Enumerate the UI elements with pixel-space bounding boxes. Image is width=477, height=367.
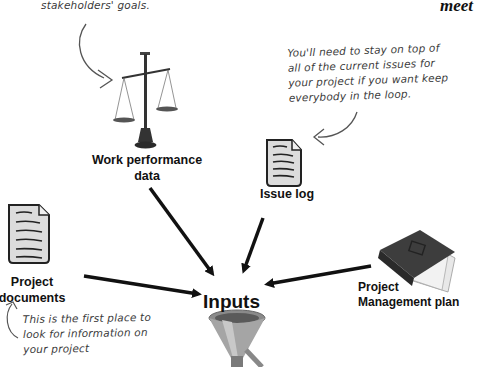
- management-plan-line-2: Management plan: [358, 295, 459, 310]
- management-plan-label: Project Management plan: [358, 280, 459, 310]
- issue-log-label: Issue log: [252, 186, 322, 202]
- project-documents-label: Project documents: [0, 274, 68, 306]
- project-documents-icon: [9, 205, 49, 263]
- project-documents-line-1: Project: [0, 274, 68, 290]
- inputs-label: Inputs: [203, 291, 260, 313]
- management-plan-line-1: Project: [358, 280, 459, 295]
- work-performance-line-1: Work performance: [82, 152, 212, 168]
- flow-arrows: [84, 188, 371, 294]
- page-heading-partial: meet: [440, 0, 473, 16]
- top-note: stakeholders' goals.: [41, 0, 150, 13]
- project-documents-line-2: documents: [0, 290, 68, 306]
- curved-arrow-to-issue-log: [314, 112, 357, 145]
- curved-arrow-to-scale: [80, 24, 112, 88]
- project-documents-note: This is the first place to look for info…: [23, 310, 152, 357]
- bracket-arrow-to-documents: [6, 302, 18, 338]
- issue-log-note: You'll need to stay on top of all of the…: [287, 40, 449, 106]
- work-performance-line-2: data: [82, 168, 212, 184]
- documents-note-line-3: your project: [23, 340, 152, 357]
- scale-icon: [113, 52, 178, 149]
- documents-note-line-2: look for information on: [23, 325, 152, 342]
- funnel-icon: [209, 310, 265, 367]
- issue-log-document-icon: [267, 140, 301, 186]
- work-performance-data-label: Work performance data: [82, 152, 212, 184]
